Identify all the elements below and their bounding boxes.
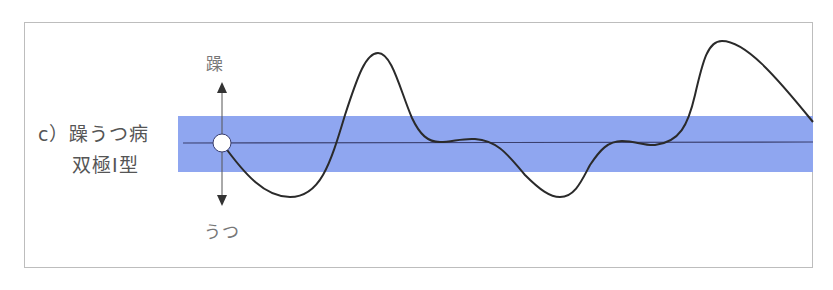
origin-marker xyxy=(213,134,231,152)
baseline xyxy=(183,142,813,143)
arrow-up-icon xyxy=(217,82,227,93)
mood-curve xyxy=(222,41,813,197)
mood-chart xyxy=(0,0,833,290)
arrow-down-icon xyxy=(217,195,227,206)
